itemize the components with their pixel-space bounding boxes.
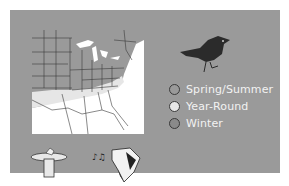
legend-label: Year-Round: [186, 100, 248, 113]
legend-item-spring-summer: Spring/Summer: [169, 81, 273, 98]
woodpecker-head-icon: ♪♫: [90, 146, 142, 184]
season-legend: Spring/Summer Year-Round Winter: [169, 81, 273, 132]
legend-swatch-winter: [169, 118, 180, 129]
legend-label: Spring/Summer: [186, 83, 273, 96]
range-map-card: Spring/Summer Year-Round Winter ♪♫: [10, 10, 280, 173]
legend-item-winter: Winter: [169, 115, 273, 132]
legend-swatch-spring-summer: [169, 84, 180, 95]
legend-item-year-round: Year-Round: [169, 98, 273, 115]
legend-label: Winter: [186, 117, 223, 130]
us-map-image: [32, 30, 144, 134]
music-notes-icon: ♪♫: [92, 152, 106, 162]
range-map: [32, 30, 144, 134]
birdbath-icon: [28, 145, 70, 181]
bird-silhouette-icon: [178, 32, 242, 74]
legend-swatch-year-round: [169, 101, 180, 112]
